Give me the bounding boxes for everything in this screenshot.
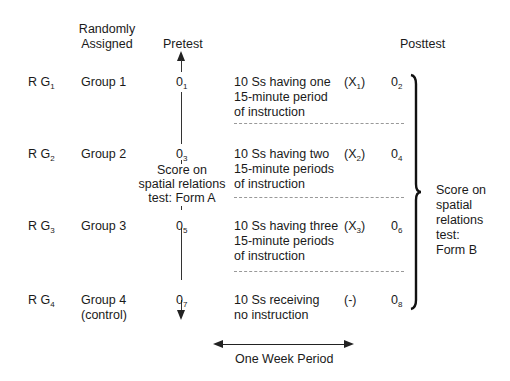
arrow-down-icon [177,310,185,320]
label-line: spatial relations [136,177,228,191]
random-group-label: R G3 [28,219,55,234]
arrow-right-icon [344,340,354,348]
group-name: Group 2 [81,147,126,162]
pretest-observation: 07 [176,293,187,308]
group-name: Group 3 [81,219,126,234]
period-label: One Week Period [235,352,333,367]
period-line [222,344,346,345]
treatment-description: 10 Ss receivingno instruction [234,293,319,323]
treatment-symbol: (X2) [344,147,365,162]
header-line: Randomly [62,22,152,37]
label-line: test: [436,228,486,243]
label-line: Form B [436,243,486,258]
treatment-symbol: (-) [344,293,357,308]
posttest-observation: 08 [391,293,402,308]
header-line: Assigned [62,37,152,52]
random-group-label: R G1 [28,75,55,90]
label-line: Score on [436,183,486,198]
row-divider [234,271,404,272]
posttest-observation: 06 [391,219,402,234]
treatment-description: 10 Ss having two15-minute periodsof inst… [234,147,334,192]
posttest-observation: 02 [391,75,402,90]
random-group-label: R G4 [28,293,55,308]
right-brace-icon [408,72,428,312]
treatment-symbol: (X3) [344,219,365,234]
pretest-axis-line [181,60,182,72]
posttest-observation: 04 [391,147,402,162]
treatment-symbol: (X1) [344,75,365,90]
header-posttest: Posttest [400,37,445,52]
posttest-score-label: Score on spatial relations test: Form B [436,183,486,258]
pretest-score-label: Score on spatial relations test: Form A [136,163,228,205]
pretest-observation: 03 [176,147,187,162]
random-group-label: R G2 [28,147,55,162]
label-line: relations [436,213,486,228]
header-pretest: Pretest [163,37,203,52]
pretest-axis-line [181,92,182,144]
pretest-axis-line [181,228,182,280]
label-line: spatial [436,198,486,213]
row-divider [234,123,404,124]
treatment-description: 10 Ss having three15-minute periodsof in… [234,219,338,264]
header-randomly-assigned: Randomly Assigned [62,22,152,52]
label-line: test: Form A [136,191,228,205]
row-divider [234,197,404,198]
group-name: Group 1 [81,75,126,90]
pretest-observation: 01 [176,75,187,90]
pretest-axis-line [181,206,182,210]
treatment-description: 10 Ss having one15-minute periodof instr… [234,75,331,120]
group-name: Group 4(control) [81,293,127,323]
pretest-observation: 05 [176,219,187,234]
label-line: Score on [136,163,228,177]
